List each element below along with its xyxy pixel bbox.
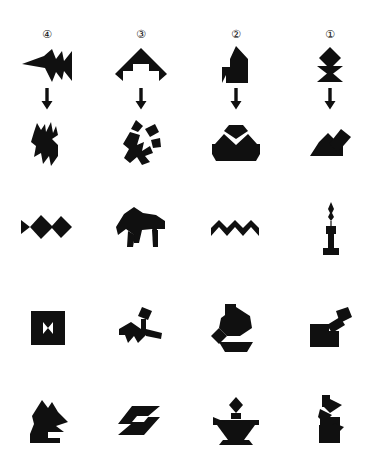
figure-chair xyxy=(303,303,357,353)
column-number-1: ① xyxy=(318,26,342,42)
figure-bear xyxy=(110,203,172,253)
figure-dog xyxy=(112,303,172,353)
tangram-sheet: ④ ③ ② ① xyxy=(0,0,374,467)
figure-house-rocket xyxy=(210,44,262,86)
figure-zigzag-wave xyxy=(207,211,265,245)
figure-oil-lamp xyxy=(207,393,265,449)
column-number-2: ② xyxy=(224,26,248,42)
figure-lightning-bolt xyxy=(112,402,170,440)
figure-fish xyxy=(17,207,77,247)
column-number-3: ③ xyxy=(129,26,153,42)
figure-rooster xyxy=(20,396,76,448)
figure-chicken xyxy=(205,300,265,356)
figure-jet-arrow xyxy=(17,45,77,85)
figure-diamond-hourglass xyxy=(306,44,354,86)
figure-running-figure xyxy=(114,116,170,170)
down-arrow-icon-column-3 xyxy=(129,88,153,110)
figure-mountain-arch xyxy=(111,45,171,85)
figure-candle xyxy=(314,200,348,258)
figure-rabbit xyxy=(308,391,356,449)
column-number-4: ④ xyxy=(35,26,59,42)
figure-bird-wing xyxy=(303,122,359,168)
down-arrow-icon-column-4 xyxy=(35,88,59,110)
down-arrow-icon-column-2 xyxy=(224,88,248,110)
figure-deer xyxy=(22,118,72,170)
figure-square-bowtie xyxy=(28,308,68,348)
down-arrow-icon-column-1 xyxy=(318,88,342,110)
figure-boat-mountain xyxy=(207,120,265,168)
